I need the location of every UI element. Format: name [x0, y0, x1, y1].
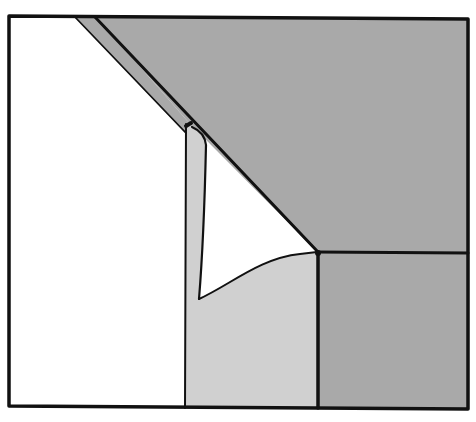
corner-junction-diagram [0, 0, 476, 422]
vertical-divider-left [185, 124, 186, 408]
strip-junction [186, 123, 191, 126]
horizontal-divider [317, 252, 468, 253]
lower-right-dark-panel [318, 252, 468, 408]
junction-node [315, 250, 321, 256]
